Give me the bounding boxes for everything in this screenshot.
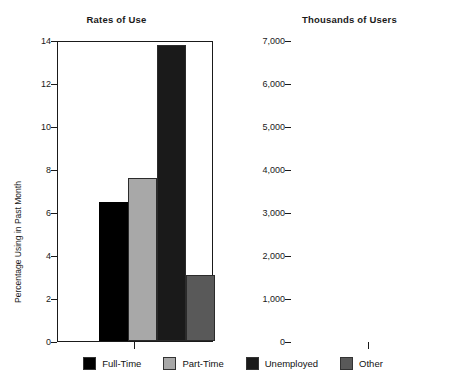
y-tick-label: 10 — [29, 122, 51, 132]
y-tick-label: 8 — [29, 165, 51, 175]
y-tick-mark — [51, 342, 57, 343]
y-tick-mark — [285, 213, 291, 214]
legend-swatch-icon — [246, 357, 259, 370]
chart-legend: Full-TimePart-TimeUnemployedOther — [0, 352, 466, 374]
x-axis-center-tick-right — [368, 342, 369, 349]
legend-swatch-icon — [83, 357, 96, 370]
chart-panel-rates-of-use: Rates of Use Percentage Using in Past Mo… — [0, 0, 233, 348]
y-tick-mark — [51, 84, 57, 85]
y-tick-mark — [51, 213, 57, 214]
y-tick-mark — [285, 84, 291, 85]
y-tick-mark — [285, 342, 291, 343]
y-tick-label: 0 — [29, 337, 51, 347]
bar-other — [186, 275, 215, 341]
bar-part-time — [128, 178, 157, 341]
y-tick-label: 6 — [29, 208, 51, 218]
y-tick-label: 4 — [29, 251, 51, 261]
y-tick-mark — [51, 170, 57, 171]
legend-item-other[interactable]: Other — [340, 357, 383, 370]
y-tick-label: 4,000 — [245, 165, 285, 175]
bar-full-time — [99, 202, 128, 341]
y-tick-label: 14 — [29, 36, 51, 46]
legend-swatch-icon — [340, 357, 353, 370]
legend-item-unemployed[interactable]: Unemployed — [246, 357, 318, 370]
legend-label: Part-Time — [182, 358, 223, 369]
legend-label: Unemployed — [265, 358, 318, 369]
y-tick-label: 0 — [245, 337, 285, 347]
chart-title-left: Rates of Use — [0, 14, 233, 25]
y-tick-mark — [51, 299, 57, 300]
y-tick-mark — [285, 41, 291, 42]
y-axis-label-left: Percentage Using in Past Month — [13, 181, 23, 303]
chart-title-right: Thousands of Users — [233, 14, 466, 25]
bar-unemployed — [157, 45, 186, 341]
x-axis-center-tick-left — [134, 342, 135, 349]
y-tick-mark — [285, 256, 291, 257]
chart-panel-thousands-of-users: Thousands of Users 01,0002,0003,0004,000… — [233, 0, 466, 348]
y-tick-label: 6,000 — [245, 79, 285, 89]
y-tick-mark — [285, 299, 291, 300]
y-tick-label: 3,000 — [245, 208, 285, 218]
y-tick-label: 1,000 — [245, 294, 285, 304]
legend-label: Other — [359, 358, 383, 369]
legend-swatch-icon — [163, 357, 176, 370]
bar-group-left — [58, 42, 212, 341]
y-tick-mark — [285, 170, 291, 171]
y-tick-mark — [51, 41, 57, 42]
y-tick-label: 2 — [29, 294, 51, 304]
y-tick-label: 7,000 — [245, 36, 285, 46]
legend-item-full-time[interactable]: Full-Time — [83, 357, 141, 370]
figure: Rates of Use Percentage Using in Past Mo… — [0, 0, 466, 385]
legend-label: Full-Time — [102, 358, 141, 369]
plot-area-left — [57, 41, 213, 342]
y-tick-mark — [51, 256, 57, 257]
legend-item-part-time[interactable]: Part-Time — [163, 357, 223, 370]
y-tick-mark — [285, 127, 291, 128]
y-tick-label: 2,000 — [245, 251, 285, 261]
y-tick-label: 5,000 — [245, 122, 285, 132]
y-tick-mark — [51, 127, 57, 128]
y-tick-label: 12 — [29, 79, 51, 89]
